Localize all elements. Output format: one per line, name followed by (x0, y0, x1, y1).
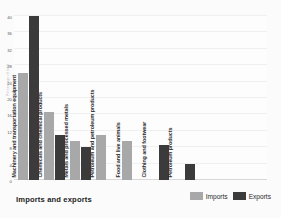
bar-imports (96, 135, 106, 180)
category-label: Petroleum and petroleum products (90, 90, 96, 178)
legend-item[interactable]: Imports (190, 192, 228, 200)
plot-area: Machinery and transportation equipmentCh… (14, 16, 267, 180)
bar-imports (44, 112, 54, 180)
bar-chart: Percentage of total 0481216202428323640 … (0, 0, 281, 218)
legend-label: Imports (206, 193, 228, 200)
legend-label: Exports (249, 193, 271, 200)
category-label: Clothing and footwear (142, 122, 148, 178)
legend-item[interactable]: Exports (233, 192, 271, 200)
bar-exports (185, 164, 195, 180)
category-label: Metals and processed metals (64, 104, 70, 178)
imports-swatch (190, 192, 203, 200)
bar-imports (70, 141, 80, 180)
bar-group: Petroleum products (174, 16, 198, 180)
category-label: Petroleum products (168, 128, 174, 178)
category-label: Food and live animals (116, 123, 122, 178)
bar-imports (122, 141, 132, 180)
bar-imports (18, 73, 28, 180)
legend: ImportsExports (190, 192, 271, 200)
category-label: Machinery and transportation equipment (12, 75, 18, 178)
category-label: Chemicals and chemical products (38, 92, 44, 178)
exports-swatch (233, 192, 246, 200)
chart-footer: Imports and exports ImportsExports (0, 184, 281, 218)
chart-title: Imports and exports (16, 195, 92, 204)
